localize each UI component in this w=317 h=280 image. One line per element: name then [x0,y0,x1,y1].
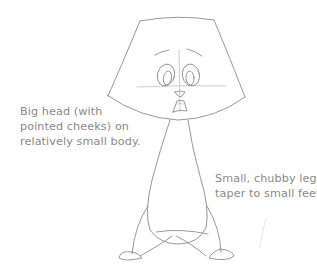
body [147,120,207,244]
caption-head-body: Big head (with pointed cheeks) on relati… [20,104,141,149]
face-guidelines [137,50,226,112]
caption-line: pointed cheeks) on [20,119,141,134]
feet [119,249,234,260]
caption-line: Big head (with [20,104,141,119]
caption-line: Small, chubby legs [215,171,317,186]
caption-line: relatively small body. [20,134,141,149]
legs [132,206,221,256]
caption-line: taper to small feet. [215,186,317,201]
eraser-smudge [260,218,266,248]
caption-legs-feet: Small, chubby legs taper to small feet. [215,171,317,201]
eyes [155,62,201,88]
eyebrows [155,49,202,56]
